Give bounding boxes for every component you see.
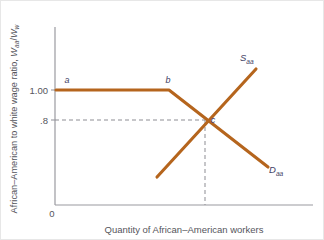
chart-figure: 1.00 .8 0 a b c Saa Daa Quantity of Afri… xyxy=(0,0,324,240)
point-label-b: b xyxy=(165,75,170,85)
point-label-a: a xyxy=(64,75,69,85)
curve-label-saa-subscript: aa xyxy=(246,58,254,65)
curve-label-daa: Daa xyxy=(269,164,284,177)
y-tick-label-0.8: .8 xyxy=(40,115,48,126)
point-label-c: c xyxy=(211,115,216,125)
origin-label: 0 xyxy=(49,208,54,219)
demand-curve-daa xyxy=(56,90,268,167)
x-axis-title: Quantity of African–American workers xyxy=(105,224,264,235)
chart-canvas: 1.00 .8 0 a b c Saa Daa Quantity of Afri… xyxy=(1,1,324,240)
y-axis-title-w-w-subscript: w xyxy=(13,23,20,29)
y-axis-title-prefix: African–American to white wage ratio, xyxy=(9,57,19,214)
supply-curve-saa xyxy=(157,69,256,177)
y-axis-title: African–American to white wage ratio, Wa… xyxy=(9,23,20,213)
y-tick-label-1.00: 1.00 xyxy=(30,85,49,96)
curve-label-saa: Saa xyxy=(240,52,254,65)
curve-label-daa-subscript: aa xyxy=(276,170,284,177)
